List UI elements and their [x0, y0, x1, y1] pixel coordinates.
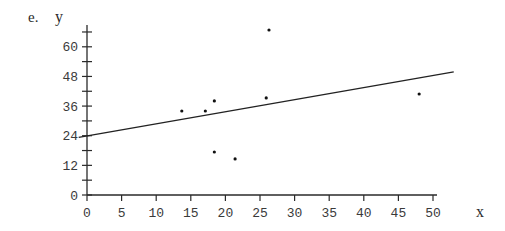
- data-point: [213, 150, 216, 153]
- data-point: [267, 28, 270, 31]
- y-axis-label: y: [55, 8, 63, 26]
- x-tick-label: 15: [183, 206, 199, 221]
- y-tick-label: 36: [62, 100, 78, 115]
- data-point: [180, 109, 183, 112]
- panel-label: e.: [28, 9, 38, 25]
- x-tick-label: 10: [148, 206, 164, 221]
- y-tick-label: 60: [62, 40, 78, 55]
- x-axis-label: x: [476, 203, 484, 220]
- regression-line: [79, 72, 454, 138]
- fit-line: [79, 72, 454, 138]
- x-tick-label: 35: [321, 206, 337, 221]
- x-tick-label: 45: [391, 206, 407, 221]
- x-tick-label: 25: [252, 206, 268, 221]
- x-tick-label: 0: [83, 206, 91, 221]
- x-tick-label: 30: [287, 206, 303, 221]
- y-tick-label: 12: [62, 159, 78, 174]
- scatter-plot: e. y x 01224364860 05101520253035404550: [0, 0, 505, 231]
- y-tick-label: 0: [70, 189, 78, 204]
- data-point: [265, 96, 268, 99]
- data-points: [180, 28, 421, 160]
- y-tick-label: 24: [62, 129, 78, 144]
- x-tick-label: 5: [118, 206, 126, 221]
- x-tick-label: 50: [425, 206, 441, 221]
- data-point: [233, 157, 236, 160]
- x-tick-label: 20: [218, 206, 234, 221]
- y-axis: 01224364860: [62, 25, 92, 204]
- data-point: [213, 99, 216, 102]
- x-tick-label: 40: [356, 206, 372, 221]
- x-axis: 05101520253035404550: [83, 195, 441, 221]
- data-point: [204, 109, 207, 112]
- y-tick-label: 48: [62, 70, 78, 85]
- data-point: [418, 92, 421, 95]
